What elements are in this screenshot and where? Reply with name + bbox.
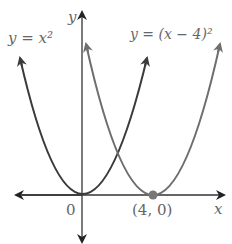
curve2-label: y = (x − 4)² [130, 26, 213, 42]
vertex-label: (4, 0) [132, 201, 172, 219]
parabola-x-squared-right-arrow [145, 58, 147, 66]
x-axis-label: x [214, 200, 222, 218]
parabola-shifted-right-arrow [218, 44, 220, 52]
curve1-label: y = x² [8, 29, 53, 47]
vertex-point [149, 191, 158, 200]
origin-label: 0 [66, 201, 76, 219]
parabola-x-squared-left-arrow [20, 58, 22, 66]
parabola-shifted [86, 44, 220, 195]
y-axis-label: y [68, 8, 76, 26]
parabola-shifted-left-arrow [86, 44, 88, 52]
